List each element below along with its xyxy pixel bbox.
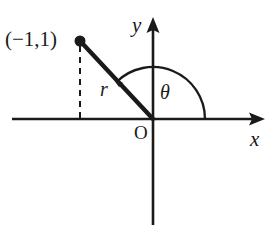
origin-label: O (134, 123, 148, 142)
y-axis-label: y (132, 15, 141, 36)
angle-label: θ (160, 82, 170, 102)
point-coordinate-label: (−1,1) (5, 29, 57, 50)
radius-label: r (100, 79, 108, 99)
x-axis-label: x (250, 129, 259, 150)
plotted-point-marker (75, 36, 86, 47)
